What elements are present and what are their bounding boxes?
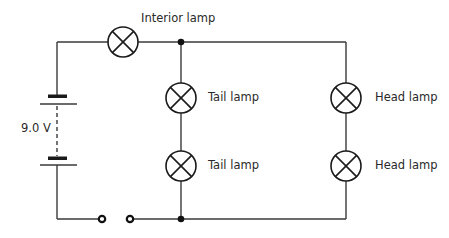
tail-lamp-1-symbol <box>166 83 196 113</box>
switch-terminal-left <box>99 216 105 222</box>
interior-lamp-symbol <box>108 27 138 57</box>
battery-cell2-negative-plate <box>48 157 67 161</box>
tail-lamp-2-symbol <box>166 151 196 181</box>
switch <box>99 216 133 222</box>
switch-terminal-right <box>127 216 133 222</box>
junction-top <box>178 39 185 46</box>
head-lamp-2-symbol <box>331 151 361 181</box>
head-lamp-1-label: Head lamp <box>375 92 437 104</box>
circuit-schematic <box>0 0 449 238</box>
wires <box>57 42 346 219</box>
tail-lamp-2-label: Tail lamp <box>208 160 259 172</box>
battery-cell1-negative-plate <box>48 95 67 99</box>
head-lamp-2-label: Head lamp <box>375 160 437 172</box>
interior-lamp-label: Interior lamp <box>141 13 215 25</box>
battery-voltage-label: 9.0 V <box>21 123 51 135</box>
head-lamp-1-symbol <box>331 83 361 113</box>
junction-bottom <box>178 216 185 223</box>
tail-lamp-1-label: Tail lamp <box>208 92 259 104</box>
circuit-diagram: Interior lamp Tail lamp Tail lamp Head l… <box>0 0 449 238</box>
